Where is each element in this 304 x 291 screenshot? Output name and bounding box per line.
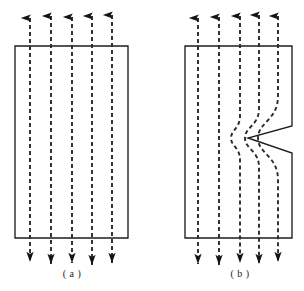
flux-diagram-svg: ( a ) ( b ) — [0, 0, 304, 291]
panel-caption-b: ( b ) — [230, 268, 249, 280]
panel-caption-a: ( a ) — [63, 268, 82, 280]
figure-root: ( a ) ( b ) — [0, 0, 304, 291]
